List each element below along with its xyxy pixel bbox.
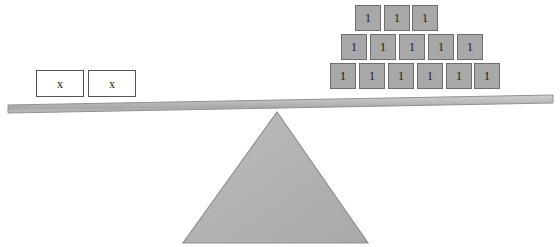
unit-block-label: 1 (394, 12, 400, 24)
variable-box-label: x (57, 78, 63, 90)
fulcrum-triangle (183, 112, 368, 243)
unit-block-label: 1 (484, 70, 490, 82)
balance-scale-diagram: x x 1 1 1 1 1 1 1 1 1 1 1 1 1 1 (0, 0, 560, 247)
unit-block-label: 1 (398, 70, 404, 82)
unit-block[interactable]: 1 (446, 63, 472, 89)
unit-block[interactable]: 1 (330, 63, 356, 89)
unit-block[interactable]: 1 (474, 63, 500, 89)
unit-block-label: 1 (409, 41, 415, 53)
unit-block-label: 1 (380, 41, 386, 53)
unit-block-label: 1 (438, 41, 444, 53)
variable-box[interactable]: x (36, 70, 84, 97)
unit-block-label: 1 (456, 70, 462, 82)
unit-block[interactable]: 1 (457, 34, 483, 60)
unit-block[interactable]: 1 (355, 5, 381, 31)
unit-block[interactable]: 1 (417, 63, 443, 89)
unit-block-label: 1 (365, 12, 371, 24)
unit-block-label: 1 (340, 70, 346, 82)
variable-box[interactable]: x (88, 70, 136, 97)
unit-block-label: 1 (427, 70, 433, 82)
unit-block-label: 1 (467, 41, 473, 53)
unit-block-label: 1 (422, 12, 428, 24)
unit-block[interactable]: 1 (399, 34, 425, 60)
unit-block[interactable]: 1 (412, 5, 438, 31)
unit-block[interactable]: 1 (341, 34, 367, 60)
variable-box-label: x (109, 78, 115, 90)
unit-block[interactable]: 1 (384, 5, 410, 31)
unit-block[interactable]: 1 (359, 63, 385, 89)
unit-block[interactable]: 1 (388, 63, 414, 89)
unit-block[interactable]: 1 (370, 34, 396, 60)
unit-block-label: 1 (369, 70, 375, 82)
balance-beam (8, 95, 553, 113)
unit-block-label: 1 (351, 41, 357, 53)
unit-block[interactable]: 1 (428, 34, 454, 60)
